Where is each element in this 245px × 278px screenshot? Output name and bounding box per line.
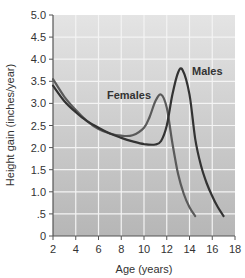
males-label: Males <box>192 65 223 77</box>
x-tick-label: 10 <box>138 243 150 255</box>
x-tick-label: 16 <box>206 243 218 255</box>
x-tick-label: 18 <box>229 243 241 255</box>
x-tick-label: 4 <box>73 243 79 255</box>
y-tick-label: 3.5 <box>31 75 46 87</box>
growth-chart: 0.51.01.52.02.53.03.54.04.55.02468101214… <box>0 0 245 278</box>
y-tick-label: 2.5 <box>31 120 46 132</box>
y-tick-label: 1.5 <box>31 164 46 176</box>
y-tick-label: 1.0 <box>31 186 46 198</box>
x-tick-label: 6 <box>95 243 101 255</box>
y-tick-label: 4.0 <box>31 53 46 65</box>
x-tick-label: 8 <box>118 243 124 255</box>
x-tick-label: 14 <box>183 243 195 255</box>
x-tick-label: 2 <box>50 243 56 255</box>
y-tick-label: 3.0 <box>31 97 46 109</box>
x-tick-label: 12 <box>161 243 173 255</box>
y-tick-label: 0 <box>40 230 46 242</box>
y-tick-label: .5 <box>37 208 46 220</box>
y-tick-label: 4.5 <box>31 31 46 43</box>
y-tick-label: 5.0 <box>31 9 46 21</box>
x-axis-title: Age (years) <box>116 263 173 275</box>
females-label: Females <box>107 89 151 101</box>
y-tick-label: 2.0 <box>31 142 46 154</box>
y-axis-title: Height gain (inches/year) <box>4 64 16 186</box>
